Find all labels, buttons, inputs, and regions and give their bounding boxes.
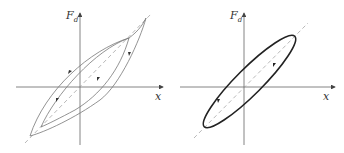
right-diagram: Fd x: [172, 0, 344, 153]
arrow-icon: [273, 63, 276, 67]
y-axis-label: Fd: [230, 10, 242, 21]
x-axis-label: x: [323, 91, 329, 102]
left-diagram: Fd x: [0, 0, 172, 153]
arrow-icon: [97, 77, 100, 81]
right-diagram-svg: [172, 0, 344, 153]
x-axis-label: x: [155, 91, 161, 102]
left-diagram-svg: [0, 0, 172, 153]
y-axis-label: Fd: [66, 10, 78, 21]
dashed-diagonal: [25, 13, 152, 143]
dashed-diagonal: [194, 23, 308, 138]
arrow-icon: [128, 52, 131, 56]
outer-loop: [30, 18, 146, 136]
arrow-icon: [217, 99, 220, 103]
arrow-icon: [56, 98, 59, 102]
